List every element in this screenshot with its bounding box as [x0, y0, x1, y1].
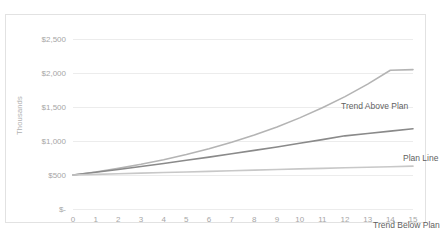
plot-area: $-$500$1,000$1,500$2,000$2,500 012345678…: [73, 39, 413, 209]
y-axis-tick-label: $1,500: [42, 103, 66, 112]
x-axis-tick-label: 3: [139, 215, 143, 224]
x-axis-tick-label: 12: [341, 215, 350, 224]
y-axis-tick-label: $2,500: [42, 35, 66, 44]
x-axis-tick-label: 1: [93, 215, 97, 224]
gridline: [73, 209, 413, 210]
y-axis-tick-label: $2,000: [42, 69, 66, 78]
x-axis-tick-label: 9: [275, 215, 279, 224]
chart-frame: Thousands $-$500$1,000$1,500$2,000$2,500…: [5, 14, 426, 223]
x-axis-tick-label: 6: [207, 215, 211, 224]
x-axis-tick-label: 2: [116, 215, 120, 224]
annotation-trend-below-plan: Trend Below Plan: [373, 220, 440, 230]
x-axis-tick-label: 4: [161, 215, 165, 224]
y-axis-tick-label: $500: [48, 171, 66, 180]
x-axis-tick-label: 10: [295, 215, 304, 224]
y-axis-tick-label: $1,000: [42, 137, 66, 146]
chart-title: [0, 0, 432, 3]
series-lines: [73, 39, 413, 209]
x-axis-tick-label: 0: [71, 215, 75, 224]
x-axis-tick-label: 5: [184, 215, 188, 224]
x-axis-tick-label: 8: [252, 215, 256, 224]
annotation-trend-above-plan: Trend Above Plan: [341, 101, 408, 111]
annotation-plan-line: Plan Line: [403, 153, 438, 163]
series-line: [73, 70, 413, 175]
x-axis-tick-label: 13: [363, 215, 372, 224]
x-axis-tick-label: 7: [229, 215, 233, 224]
x-axis-tick-label: 11: [318, 215, 326, 224]
y-axis-tick-label: $-: [59, 205, 66, 214]
y-axis-title: Thousands: [15, 85, 24, 147]
